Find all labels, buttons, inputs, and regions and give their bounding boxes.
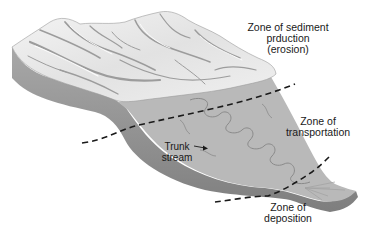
zone-label-deposition: Zone of deposition (256, 202, 320, 224)
zone-label-erosion: Zone of sediment prduction (erosion) (232, 22, 344, 55)
zone-label-line: deposition (256, 213, 320, 224)
annotation-line: Trunk (152, 141, 202, 152)
trunk-stream-label: Trunk stream (152, 141, 202, 163)
zone-label-line: transportation (270, 127, 366, 138)
annotation-line: stream (152, 152, 202, 163)
diagram-canvas: Zone of sediment prduction (erosion) Zon… (0, 0, 368, 229)
zone-label-transportation: Zone of transportation (270, 116, 366, 138)
zone-label-line: (erosion) (232, 44, 344, 55)
